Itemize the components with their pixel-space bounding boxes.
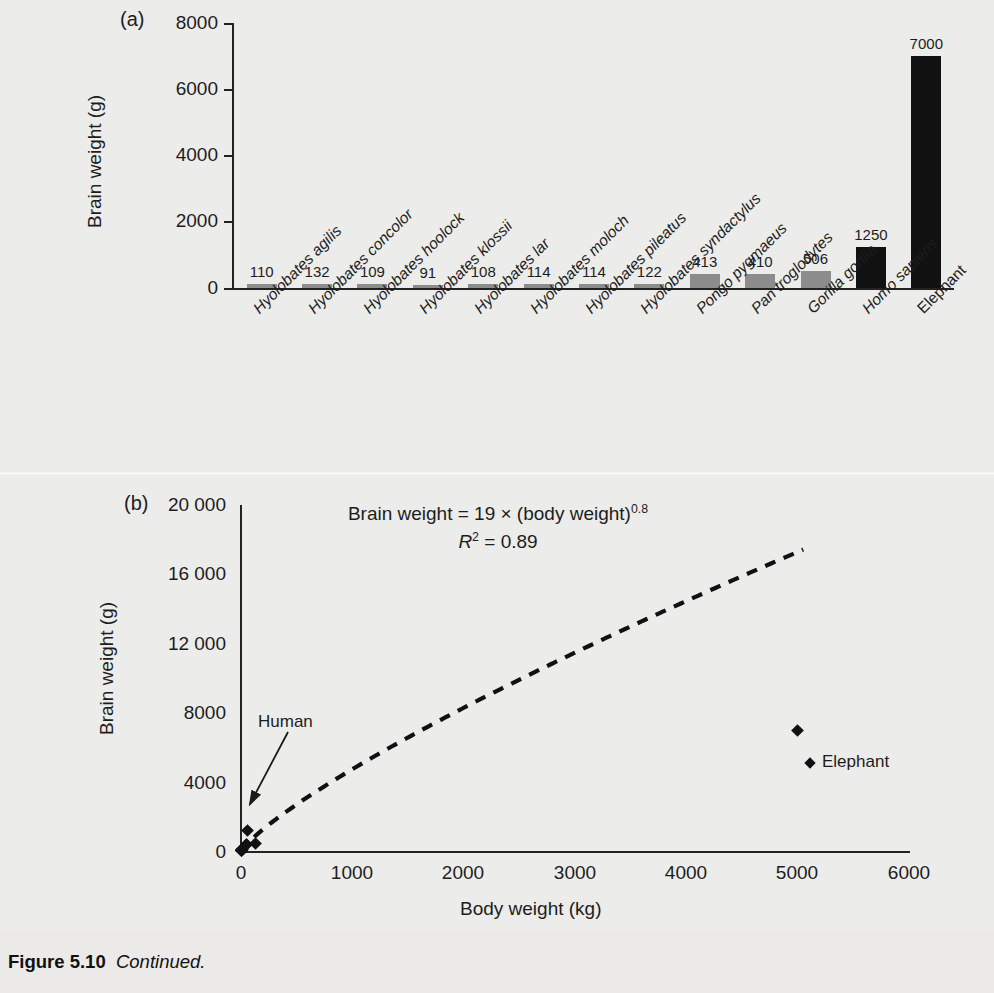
panel-b-equation: Brain weight = 19 × (body weight)0.8 R2 … xyxy=(318,500,678,555)
human-annotation-label: Human xyxy=(258,712,313,732)
panel-b-ytick-16000: 16 000 xyxy=(120,563,226,585)
panel-b-x-axis-title: Body weight (kg) xyxy=(460,898,602,920)
elephant-legend-label: Elephant xyxy=(822,752,889,772)
panel-a-ytick-4000: 4000 xyxy=(120,144,218,166)
panel-a-tick-6000 xyxy=(224,89,233,91)
panel-b-y-axis-title: Brain weight (g) xyxy=(96,602,118,735)
data-point-10 xyxy=(249,837,262,850)
panel-a-tick-4000 xyxy=(224,155,233,157)
panel-a-tick-2000 xyxy=(224,221,233,223)
bar-value-label-12: 7000 xyxy=(886,35,966,52)
panel-a-ytick-6000: 6000 xyxy=(120,78,218,100)
panel-b-ytick-8000: 8000 xyxy=(120,702,226,724)
figure-caption: Figure 5.10 Continued. xyxy=(8,951,205,973)
data-point-12 xyxy=(791,724,804,737)
panel-a-tick-0 xyxy=(224,288,233,290)
panel-a-y-axis-title: Brain weight (g) xyxy=(84,95,106,228)
panel-b-xtick-3000: 3000 xyxy=(525,862,625,884)
figure-caption-text: Continued. xyxy=(116,951,205,972)
panel-b-xtick-6000: 6000 xyxy=(859,862,959,884)
panel-b-xtick-5000: 5000 xyxy=(747,862,847,884)
panel-a-ytick-2000: 2000 xyxy=(120,210,218,232)
panel-b-xtick-0: 0 xyxy=(191,862,291,884)
panel-b-xtick-4000: 4000 xyxy=(636,862,736,884)
elephant-legend-marker xyxy=(804,757,815,768)
equation-body: Brain weight = 19 × (body weight) xyxy=(348,503,631,524)
power-fit-curve xyxy=(241,550,803,852)
panel-b-ytick-20000: 20 000 xyxy=(120,494,226,516)
equation-exponent: 0.8 xyxy=(631,502,648,516)
panel-b-y-axis-line xyxy=(240,505,242,853)
human-annotation-arrow xyxy=(250,732,288,804)
panel-b-xtick-2000: 2000 xyxy=(413,862,513,884)
panel-b-ytick-4000: 4000 xyxy=(120,772,226,794)
panel-a-ytick-8000: 8000 xyxy=(120,12,218,34)
r-squared-value: = 0.89 xyxy=(479,531,538,552)
panel-b-x-axis-line xyxy=(240,851,910,853)
bar-value-label-11: 1250 xyxy=(831,226,911,243)
figure-caption-label: Figure 5.10 xyxy=(8,951,106,972)
equation-line-2: R2 = 0.89 xyxy=(318,528,678,556)
panel-a-tick-8000 xyxy=(224,23,233,25)
scan-seam xyxy=(0,472,994,475)
figure-page: (a) Brain weight (g) 8000 6000 4000 2000… xyxy=(0,0,994,993)
panel-b-ytick-0: 0 xyxy=(120,841,226,863)
data-point-11 xyxy=(241,824,254,837)
panel-b-xtick-1000: 1000 xyxy=(302,862,402,884)
equation-line-1: Brain weight = 19 × (body weight)0.8 xyxy=(318,500,678,528)
panel-b-ytick-12000: 12 000 xyxy=(120,633,226,655)
panel-a-ytick-0: 0 xyxy=(120,277,218,299)
r-squared-exponent: 2 xyxy=(472,529,479,543)
r-squared-symbol: R xyxy=(458,531,472,552)
